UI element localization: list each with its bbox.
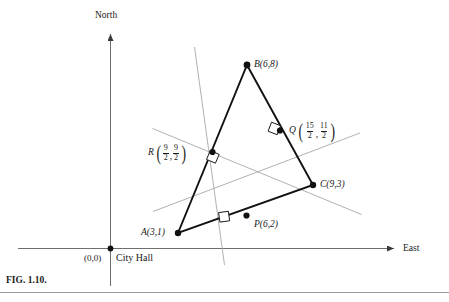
point-c-label: C(9,3) bbox=[320, 180, 345, 190]
point-q-y-fraction: 11 2 bbox=[319, 122, 329, 140]
point-r-dot bbox=[209, 149, 215, 155]
origin-point bbox=[108, 246, 114, 252]
point-a-dot bbox=[175, 230, 181, 236]
point-b-label: B(6,8) bbox=[254, 60, 278, 70]
point-p-label: P(6,2) bbox=[254, 220, 278, 230]
north-axis-label: North bbox=[95, 11, 117, 21]
point-r-name: R bbox=[148, 148, 154, 158]
point-p-dot bbox=[243, 212, 249, 218]
point-r-close-paren: ) bbox=[181, 144, 186, 162]
origin-coordinate-label: (0,0) bbox=[84, 254, 101, 263]
east-axis-label: East bbox=[403, 244, 419, 254]
point-q-label: Q ( 15 2 , 11 2 ) bbox=[289, 122, 337, 140]
point-r-y-fraction: 9 2 bbox=[173, 144, 179, 162]
geometry-diagram bbox=[0, 0, 449, 302]
point-b-dot bbox=[244, 62, 251, 69]
figure-caption: FIG. 1.10. bbox=[6, 276, 47, 286]
point-r-x-fraction: 9 2 bbox=[163, 144, 169, 162]
figure-1-10: North East (0,0) City Hall B(6,8) C(9,3)… bbox=[0, 0, 449, 302]
point-q-x-fraction: 15 2 bbox=[305, 122, 315, 140]
point-r-comma: , bbox=[170, 152, 172, 163]
point-q-open-paren: ( bbox=[298, 122, 303, 140]
point-c-dot bbox=[310, 182, 316, 188]
point-q-name: Q bbox=[289, 126, 296, 136]
point-q-dot bbox=[277, 127, 283, 133]
city-hall-label: City Hall bbox=[116, 253, 153, 263]
triangle-abc bbox=[178, 65, 313, 233]
point-a-label: A(3,1) bbox=[141, 228, 165, 238]
right-angle-marker-p bbox=[219, 211, 230, 222]
point-q-comma: , bbox=[316, 130, 318, 141]
point-q-close-paren: ) bbox=[331, 122, 336, 140]
point-r-open-paren: ( bbox=[156, 144, 161, 162]
point-r-label: R ( 9 2 , 9 2 ) bbox=[148, 144, 187, 162]
